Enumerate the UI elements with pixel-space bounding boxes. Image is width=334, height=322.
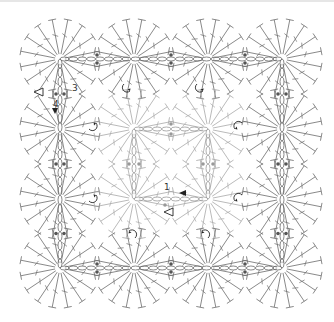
- join-dot: [243, 270, 247, 274]
- join-dot: [169, 132, 173, 136]
- turn-arrow-icon: [234, 193, 242, 201]
- motif: [94, 19, 174, 99]
- join-dot: [284, 162, 288, 166]
- join-dot: [284, 92, 288, 96]
- join-dot: [137, 162, 141, 166]
- join-dot: [243, 262, 247, 266]
- join-dot: [243, 53, 247, 57]
- join-dot: [62, 92, 66, 96]
- join-dot: [201, 162, 205, 166]
- crochet-diagram: [0, 0, 334, 322]
- round-label-4: 4: [53, 100, 59, 109]
- join-dot: [169, 122, 173, 126]
- turn-arrow-icon: [202, 230, 210, 238]
- join-dot: [243, 61, 247, 65]
- turn-arrow-icon: [129, 230, 137, 238]
- motif: [242, 159, 322, 239]
- join-dot: [54, 162, 58, 166]
- join-dot: [284, 232, 288, 236]
- join-dot: [95, 270, 99, 274]
- join-dot: [211, 162, 215, 166]
- join-dot: [54, 232, 58, 236]
- join-dot: [169, 53, 173, 57]
- join-dot: [62, 232, 66, 236]
- motif: [94, 228, 174, 308]
- join-dot: [276, 162, 280, 166]
- join-dot: [95, 262, 99, 266]
- join-dot: [95, 61, 99, 65]
- join-dot: [95, 53, 99, 57]
- join-dot: [62, 162, 66, 166]
- turn-arrow-icon: [89, 123, 97, 131]
- end-marker-icon: [179, 190, 186, 196]
- join-dot: [276, 232, 280, 236]
- join-dot: [276, 92, 280, 96]
- start-marker-icon: [164, 208, 173, 216]
- motif: [168, 19, 248, 99]
- motif: [242, 89, 322, 169]
- join-dot: [54, 92, 58, 96]
- round-label-3: 3: [72, 84, 78, 93]
- join-dot: [169, 270, 173, 274]
- motif: [168, 228, 248, 308]
- motif: [20, 89, 100, 169]
- join-dot: [169, 262, 173, 266]
- join-dot: [163, 203, 167, 207]
- motif: [20, 159, 100, 239]
- turn-arrow-icon: [89, 195, 97, 203]
- join-dot: [169, 61, 173, 65]
- join-dot: [127, 162, 131, 166]
- round-label-1: 1: [164, 183, 170, 192]
